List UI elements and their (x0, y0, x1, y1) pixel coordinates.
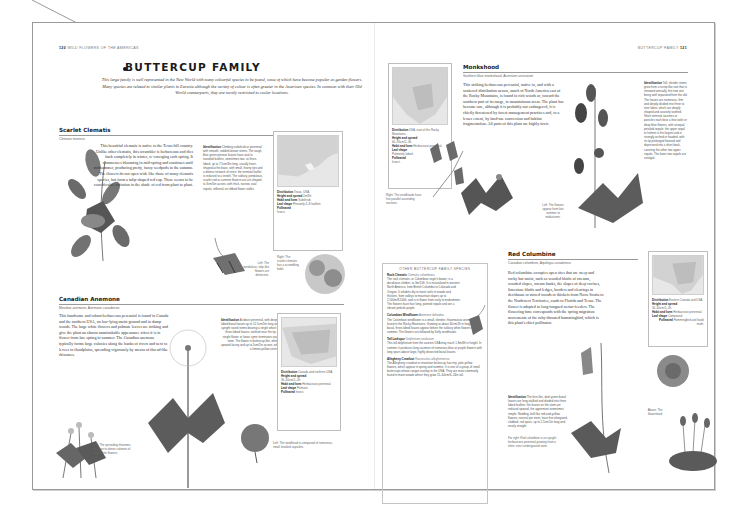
monkshood-illustration (573, 78, 653, 228)
factbox-red-columbine: Distribution Eastern Canada and USA. Hei… (648, 251, 708, 347)
species-rule (508, 259, 638, 260)
other-species-item: Allegheny Crowfoot Ranunculus alleghenie… (387, 357, 483, 378)
page-number-right: 121 (680, 46, 687, 50)
columbine-habit-illustration (663, 413, 723, 473)
book-spread: 120 WILD FLOWERS OF THE AMERICAS BUTTERC… (32, 22, 715, 490)
identification-red-columbine: Identification The fern-like, dark green… (508, 395, 570, 428)
family-intro: This large family is well represented in… (101, 77, 363, 97)
page-number-left: 120 (59, 46, 66, 50)
distribution-map (392, 67, 448, 125)
species-title-red-columbine: Red Columbine (508, 251, 555, 257)
identification-scarlet-clematis: Identification Climbing subshrub or pere… (203, 145, 263, 191)
clematis-habit-illustration (299, 248, 351, 300)
caption-clematis-left: Left: The pendulous, tulip-like flowers … (243, 261, 269, 277)
caption-anemone-seedhead: Left: The seedhead is composed of numero… (273, 441, 335, 449)
other-species-item: Tall Larkspur Delphinium exaltatumThis t… (387, 337, 483, 354)
species-subtitle: Meadow anemone, Anemone canadensis (59, 306, 119, 310)
species-title-monkshood: Monkshood (463, 64, 499, 70)
right-folio: BUTTERCUP FAMILY 121 (638, 46, 687, 50)
caption-columbine-far-right: Far right: Red columbine is an upright h… (508, 436, 563, 448)
factbox-scarlet-clematis: Distribution Texas, USA. Height and spre… (273, 131, 343, 251)
other-species-heading: OTHER BUTTERCUP FAMILY SPECIES (387, 267, 483, 271)
caption-anemone-left: Left: The spreading rhizomes give rise t… (93, 443, 131, 455)
identification-canadian-anemone: Identification A robust perennial, with … (219, 318, 279, 351)
species-body-monkshood: This striking herbaceous perennial, nati… (463, 82, 565, 127)
left-running-head: WILD FLOWERS OF THE AMERICAS (67, 46, 138, 50)
north-america-map-icon (278, 136, 338, 186)
north-america-map-icon (282, 318, 336, 366)
north-america-map-icon (653, 256, 703, 294)
identification-monkshood: Identification Tall, slender stems grow … (644, 81, 688, 160)
species-facts: Distribution Canada and northern USA. He… (281, 370, 337, 394)
canadian-anemone-illustration (143, 323, 228, 488)
species-body-red-columbine: Red columbine occupies open sites that a… (508, 270, 604, 326)
species-rule (59, 135, 295, 136)
family-title: BUTTERCUP FAMILY (125, 61, 261, 73)
distribution-map (652, 255, 704, 295)
left-folio: 120 WILD FLOWERS OF THE AMERICAS (59, 46, 139, 50)
species-facts: Distribution Eastern Canada and USA. Hei… (652, 298, 704, 326)
other-species-box: OTHER BUTTERCUP FAMILY SPECIES Rock Clem… (382, 263, 488, 504)
species-rule (59, 304, 344, 305)
right-running-head: BUTTERCUP FAMILY (638, 46, 679, 50)
caption-monkshood-flowers: Left: The flowers appear from late summe… (539, 203, 567, 219)
caption-clematis-right: Right: The scarlet clematis has a scramb… (277, 255, 299, 271)
columbine-flowerhead-illustration (648, 351, 698, 396)
species-facts: Distribution Texas, USA. Height and spre… (277, 190, 339, 214)
species-subtitle: Canadian columbine, Aquilegia canadensis (508, 261, 571, 265)
distribution-map (281, 317, 337, 367)
species-subtitle: Southern blue monkshood, Aconitum uncina… (463, 74, 533, 78)
species-body-scarlet-clematis: This beautiful clematis is native to the… (93, 143, 193, 188)
north-america-map-icon (393, 68, 447, 124)
page-gutter (374, 23, 375, 489)
distribution-map (277, 135, 339, 187)
red-columbine-illustration (571, 343, 631, 473)
rock-clematis-illustration (465, 305, 487, 337)
anemone-seedhead-illustration (235, 418, 275, 463)
species-rule (463, 72, 688, 73)
species-title-scarlet-clematis: Scarlet Clematis (59, 127, 111, 133)
caption-monkshood-seedheads: Right: The seedheads have five parallel … (386, 193, 426, 205)
monkshood-leaf-illustration (451, 163, 521, 223)
species-title-canadian-anemone: Canadian Anemone (59, 296, 120, 302)
factbox-canadian-anemone: Distribution Canada and northern USA. He… (277, 313, 341, 431)
